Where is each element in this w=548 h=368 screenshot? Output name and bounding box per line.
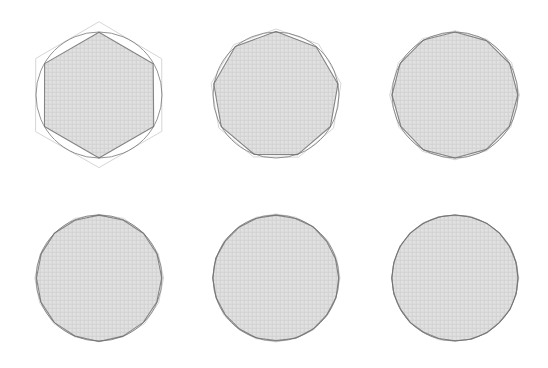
- figure-container: [0, 0, 548, 368]
- panel-5-polygon-20-sides: [212, 214, 340, 342]
- panel-6-polygon-24-sides: [392, 215, 519, 341]
- polygon-approximation-figure: [0, 0, 548, 368]
